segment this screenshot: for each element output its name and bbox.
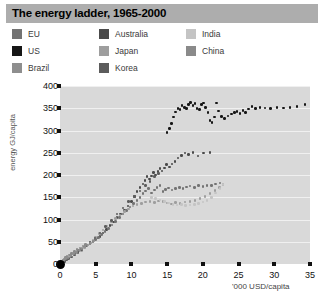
data-point-korea	[157, 172, 160, 175]
data-point-australia	[197, 155, 200, 158]
data-point-australia	[174, 160, 177, 163]
legend-label: India	[202, 26, 220, 43]
data-point-eu	[122, 213, 125, 216]
data-point-us	[247, 108, 250, 111]
x-tick-mark	[165, 262, 169, 266]
data-point-eu	[153, 189, 156, 192]
data-point-us	[304, 103, 307, 106]
data-point-india	[154, 197, 157, 200]
x-tick-label: 30	[261, 270, 287, 280]
data-point-japan	[132, 205, 135, 208]
x-tick-label: 0	[47, 270, 73, 280]
y-tick-label: 150	[0, 192, 58, 202]
data-point-australia	[184, 152, 187, 155]
y-tick-label: 100	[0, 215, 58, 225]
data-point-japan	[136, 203, 139, 206]
data-point-eu	[162, 190, 165, 193]
data-point-japan	[114, 217, 117, 220]
data-point-eu	[182, 187, 185, 190]
data-point-india	[193, 203, 196, 206]
data-point-eu	[206, 184, 209, 187]
data-point-us	[289, 106, 292, 109]
data-point-us	[282, 107, 285, 110]
data-point-brazil	[92, 240, 95, 243]
data-point-us	[211, 121, 214, 124]
data-point-eu	[210, 184, 213, 187]
y-tick-mark	[57, 173, 61, 177]
data-point-us	[202, 102, 205, 105]
data-point-india	[180, 203, 183, 206]
legend-label: Australia	[115, 26, 148, 43]
y-tick-mark	[57, 151, 61, 155]
y-tick-mark	[57, 106, 61, 110]
legend-label: US	[28, 43, 40, 60]
data-point-australia	[139, 186, 142, 189]
y-tick-label: 300	[0, 126, 58, 136]
y-tick-label: 50	[0, 237, 58, 247]
legend-swatch-icon	[99, 63, 109, 73]
data-point-eu	[197, 184, 200, 187]
data-point-korea	[153, 175, 156, 178]
x-tick-mark	[308, 262, 312, 266]
data-point-japan	[127, 208, 130, 211]
legend-swatch-icon	[12, 29, 22, 39]
data-point-japan	[189, 200, 192, 203]
gridline	[60, 131, 310, 132]
gridline	[60, 86, 310, 87]
data-point-eu	[214, 183, 217, 186]
data-point-japan	[119, 214, 122, 217]
page-title: The energy ladder, 1965-2000	[12, 6, 166, 21]
data-point-eu	[111, 224, 114, 227]
data-point-eu	[118, 216, 121, 219]
data-point-australia	[202, 152, 205, 155]
data-point-us	[194, 102, 197, 105]
data-point-korea	[139, 190, 142, 193]
data-point-korea	[104, 225, 107, 228]
data-point-japan	[194, 199, 197, 202]
data-point-india	[172, 203, 175, 206]
x-tick-label: 25	[226, 270, 252, 280]
data-point-eu	[185, 186, 188, 189]
legend-label: China	[202, 43, 224, 60]
data-point-us	[213, 116, 216, 119]
data-point-brazil	[75, 251, 78, 254]
data-point-brazil	[89, 242, 92, 245]
data-point-us	[215, 102, 218, 105]
data-point-india	[219, 187, 222, 190]
data-point-eu	[142, 192, 145, 195]
data-point-eu	[174, 187, 177, 190]
data-point-eu	[202, 185, 205, 188]
data-point-us	[172, 116, 175, 119]
data-point-us	[269, 107, 272, 110]
data-point-us	[185, 107, 188, 110]
legend-swatch-icon	[99, 29, 109, 39]
data-point-australia	[209, 151, 212, 154]
data-point-eu	[171, 189, 174, 192]
data-point-eu	[156, 186, 159, 189]
data-point-india	[202, 201, 205, 204]
data-point-eu	[150, 192, 153, 195]
data-point-australia	[192, 151, 195, 154]
gridline	[60, 242, 310, 243]
plot-wrapper: energy GJ/capita '000 USD/capita 0501001…	[0, 78, 336, 292]
y-tick-mark	[57, 84, 61, 88]
y-tick-mark	[57, 240, 61, 244]
plot-panel	[60, 86, 310, 264]
legend-swatch-icon	[99, 46, 109, 56]
data-point-eu	[189, 185, 192, 188]
y-tick-label: 400	[0, 81, 58, 91]
data-point-korea	[133, 195, 136, 198]
data-point-eu	[178, 186, 181, 189]
y-tick-label: 0	[0, 259, 58, 269]
data-point-eu	[107, 227, 110, 230]
x-tick-mark	[272, 262, 276, 266]
gridline	[60, 220, 310, 221]
data-point-eu	[144, 190, 147, 193]
data-point-brazil	[84, 245, 87, 248]
data-point-india	[214, 192, 217, 195]
data-point-us	[227, 115, 230, 118]
data-point-india	[206, 199, 209, 202]
data-point-australia	[168, 166, 171, 169]
data-point-india	[197, 202, 200, 205]
data-point-australia	[136, 190, 139, 193]
